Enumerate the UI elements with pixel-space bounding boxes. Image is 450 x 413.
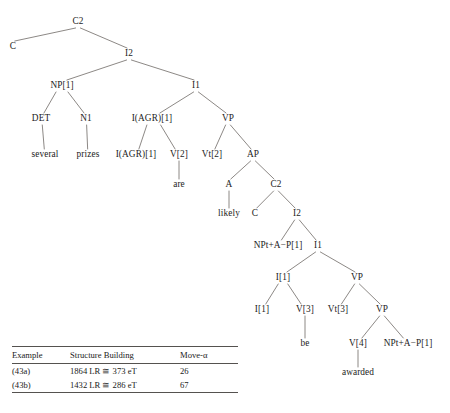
- tree-edge-n8-n13: [161, 125, 175, 149]
- tree-node-n12: I(AGR)[1]: [116, 150, 157, 159]
- cell-example: (43a): [12, 363, 70, 378]
- tree-edge-n23-n24: [287, 252, 316, 272]
- tree-node-n25: VP: [351, 273, 363, 282]
- tree-node-n20: C: [252, 209, 258, 218]
- tree-edge-n18-n20: [257, 191, 274, 208]
- tree-node-n4: NP[1]: [50, 81, 73, 90]
- tree-node-n6: DET: [32, 114, 50, 123]
- tree-node-n9: VP: [222, 114, 234, 123]
- tree-node-n1: C2: [72, 17, 83, 26]
- edge-group: [15, 28, 404, 367]
- tree-node-n32: NPt+A−P[1]: [384, 339, 433, 348]
- figure-container: C2CI2NP[1]I1DETN1I(AGR)[1]VPseveralprize…: [0, 0, 450, 413]
- table-header-row: Example Structure Building Move-α: [12, 347, 238, 364]
- tree-node-n17: A: [226, 180, 233, 189]
- tree-node-n33: awarded: [342, 368, 374, 377]
- tree-node-n16: are: [173, 180, 185, 189]
- tree-edge-n15-n17: [231, 161, 251, 179]
- cell-move-alpha: 67: [180, 378, 238, 393]
- tree-node-n30: be: [301, 339, 310, 348]
- tree-edge-n15-n18: [255, 161, 274, 179]
- cell-structure-building: 1864 LR ≅ 373 eT: [70, 363, 180, 378]
- tree-node-n10: several: [31, 150, 58, 159]
- cell-move-alpha: 26: [180, 363, 238, 378]
- cell-structure-building: 1432 LR ≅ 286 eT: [70, 378, 180, 393]
- tree-edge-n6-n10: [42, 125, 44, 149]
- tree-edge-n7-n11: [87, 125, 88, 149]
- tree-edge-n9-n14: [215, 125, 226, 149]
- tree-node-n11: prizes: [77, 150, 100, 159]
- tree-node-n22: NPt+A−P[1]: [254, 241, 303, 250]
- tree-edge-n8-n12: [139, 125, 147, 149]
- cell-example: (43b): [12, 378, 70, 393]
- table-row: (43a) 1864 LR ≅ 373 eT 26: [12, 363, 238, 378]
- tree-edge-n29-n32: [384, 316, 403, 338]
- tree-node-n5: I1: [192, 81, 200, 90]
- tree-edge-n9-n15: [230, 125, 251, 149]
- tree-edge-n21-n23: [299, 220, 316, 240]
- tree-edge-n23-n25: [320, 252, 355, 272]
- tree-node-n3: I2: [125, 49, 133, 58]
- tree-edge-n25-n28: [341, 284, 354, 304]
- tree-node-n8: I(AGR)[1]: [132, 114, 173, 123]
- results-table: Example Structure Building Move-α (43a) …: [12, 346, 238, 393]
- tree-edge-n5-n9: [198, 92, 226, 113]
- tree-node-n15: AP: [247, 150, 259, 159]
- tree-edge-n1-n3: [80, 28, 127, 48]
- tree-edge-n24-n27: [288, 284, 301, 304]
- table-body: (43a) 1864 LR ≅ 373 eT 26 (43b) 1432 LR …: [12, 363, 238, 393]
- table-row: (43b) 1432 LR ≅ 286 eT 67: [12, 378, 238, 393]
- tree-edge-n21-n22: [281, 220, 294, 240]
- tree-node-n24: I[1]: [276, 273, 290, 282]
- tree-node-n18: C2: [270, 180, 281, 189]
- tree-node-n14: Vt[2]: [202, 150, 223, 159]
- table-header-move-alpha: Move-α: [180, 347, 238, 364]
- tree-edge-n3-n5: [131, 60, 194, 80]
- table-header-structure-building: Structure Building: [70, 347, 180, 364]
- tree-node-n21: I2: [293, 209, 301, 218]
- tree-node-n2: C: [10, 42, 16, 51]
- tree-edge-n29-n31: [362, 316, 380, 338]
- tree-edge-n1-n2: [15, 28, 76, 41]
- tree-node-n31: V[4]: [349, 339, 367, 348]
- tree-node-n27: V[3]: [296, 305, 314, 314]
- tree-edge-n3-n4: [67, 60, 127, 80]
- tree-node-n29: VP: [376, 305, 388, 314]
- tree-node-n28: Vt[3]: [328, 305, 349, 314]
- tree-edge-n18-n21: [278, 191, 295, 208]
- tree-edge-n4-n6: [44, 92, 56, 113]
- table-header-example: Example: [12, 347, 70, 364]
- tree-node-n7: N1: [80, 114, 92, 123]
- tree-edge-n4-n7: [68, 92, 84, 113]
- tree-edge-n5-n8: [160, 92, 194, 113]
- tree-node-n19: likely: [218, 209, 240, 218]
- tree-node-n23: I1: [314, 241, 322, 250]
- tree-node-n26: I[1]: [255, 305, 269, 314]
- tree-edge-n25-n29: [359, 284, 380, 304]
- tree-edge-n24-n26: [266, 284, 278, 304]
- tree-node-n13: V[2]: [170, 150, 188, 159]
